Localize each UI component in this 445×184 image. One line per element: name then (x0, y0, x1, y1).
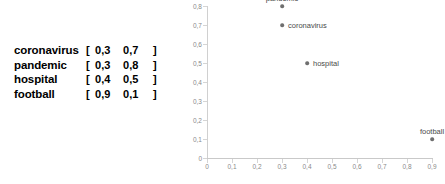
vector-values: [0,90,1] (86, 88, 162, 100)
open-bracket: [ (86, 44, 95, 56)
x-tick-label: 0,2 (252, 163, 261, 170)
x-tick-label: 0,6 (352, 163, 361, 170)
vector-row: football[0,90,1] (14, 88, 184, 103)
y-tick-label: 0,2 (190, 117, 202, 124)
x-tick-label: 0,3 (277, 163, 286, 170)
word-vector-table: coronavirus[0,30,7]pandemic[0,30,8]hospi… (14, 44, 184, 102)
vector-values: [0,40,5] (86, 73, 162, 85)
vector-values: [0,30,7] (86, 44, 162, 56)
y-tick-label: 0,1 (190, 136, 202, 143)
x-tick-label: 0,7 (377, 163, 386, 170)
x-tick-label: 0,8 (402, 163, 411, 170)
vector-y-value: 0,8 (123, 59, 151, 71)
y-tick-label: 0 (190, 155, 202, 162)
y-tick-label: 0,7 (190, 22, 202, 29)
vector-x-value: 0,3 (95, 44, 123, 56)
vector-word-label: hospital (14, 73, 86, 85)
vector-x-value: 0,3 (95, 59, 123, 71)
scatter-point (430, 137, 434, 141)
scatter-point-label: football (420, 127, 444, 136)
scatter-point (305, 61, 309, 65)
close-bracket: ] (151, 44, 162, 56)
open-bracket: [ (86, 88, 95, 100)
vector-row: hospital[0,40,5] (14, 73, 184, 88)
scatter-point-label: pandemic (266, 0, 299, 3)
vector-word-label: football (14, 88, 86, 100)
vector-row: pandemic[0,30,8] (14, 59, 184, 74)
scatter-point (280, 23, 284, 27)
scatter-point-label: hospital (313, 59, 339, 68)
y-tick-label: 0,8 (190, 3, 202, 10)
close-bracket: ] (151, 88, 162, 100)
vector-x-value: 0,9 (95, 88, 123, 100)
plot-area: pandemiccoronavirushospitalfootball (207, 6, 432, 158)
y-tick-label: 0,5 (190, 60, 202, 67)
x-tick-label: 0,4 (302, 163, 311, 170)
open-bracket: [ (86, 73, 95, 85)
vector-word-label: coronavirus (14, 44, 86, 56)
vector-row: coronavirus[0,30,7] (14, 44, 184, 59)
vector-x-value: 0,4 (95, 73, 123, 85)
open-bracket: [ (86, 59, 95, 71)
scatter-point-label: coronavirus (288, 21, 327, 30)
vector-y-value: 0,7 (123, 44, 151, 56)
x-tick-label: 0 (205, 163, 209, 170)
x-axis-line (207, 158, 433, 159)
vector-word-label: pandemic (14, 59, 86, 71)
vector-y-value: 0,5 (123, 73, 151, 85)
vector-values: [0,30,8] (86, 59, 162, 71)
word-embedding-scatter-plot: 00,10,20,30,40,50,60,70,8 00,10,20,30,40… (190, 0, 445, 184)
x-tick-label: 0,9 (427, 163, 436, 170)
close-bracket: ] (151, 73, 162, 85)
scatter-point (280, 4, 284, 8)
vector-y-value: 0,1 (123, 88, 151, 100)
x-tick-label: 0,1 (227, 163, 236, 170)
close-bracket: ] (151, 59, 162, 71)
y-tick-label: 0,6 (190, 41, 202, 48)
y-tick-label: 0,3 (190, 98, 202, 105)
x-tick-label: 0,5 (327, 163, 336, 170)
y-tick-label: 0,4 (190, 79, 202, 86)
